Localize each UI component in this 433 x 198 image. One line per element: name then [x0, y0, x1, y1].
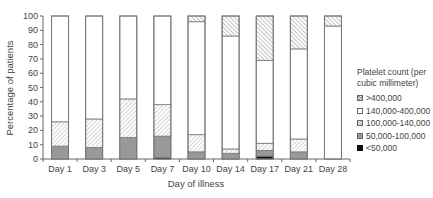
y-tick-label: 20	[28, 125, 38, 135]
y-tick-label: 10	[28, 140, 38, 150]
light-hatch-swatch-icon	[357, 120, 363, 126]
bar-segment	[222, 149, 239, 153]
y-axis: 0102030405060708090100	[23, 11, 43, 164]
bar-segment	[86, 16, 103, 119]
bar-segment	[290, 49, 307, 139]
bar-day-10	[188, 16, 205, 159]
y-tick-label: 0	[33, 154, 38, 164]
x-axis: Day 1Day 3Day 5Day 7Day 10Day 14Day 17Da…	[43, 159, 350, 174]
y-tick-label: 60	[28, 68, 38, 78]
bar-day-1	[52, 16, 69, 159]
bar-segment	[120, 16, 137, 99]
bar-segment	[86, 148, 103, 159]
bar-segment	[52, 146, 69, 159]
bar-day-14	[222, 16, 239, 159]
y-tick-label: 80	[28, 40, 38, 50]
legend-label: 50,000-100,000	[366, 130, 426, 143]
x-tick-label: Day 21	[285, 164, 314, 174]
x-axis-label: Day of illness	[168, 178, 225, 189]
y-tick-label: 90	[28, 25, 38, 35]
y-tick-label: 70	[28, 54, 38, 64]
bar-segment	[290, 152, 307, 159]
bar-segment	[256, 60, 273, 143]
bar-segment	[188, 22, 205, 135]
x-tick-label: Day 1	[48, 164, 72, 174]
legend-title-line2: cubic millimeter)	[357, 78, 430, 89]
bar-segment	[120, 99, 137, 138]
x-tick-label: Day 5	[117, 164, 141, 174]
x-tick-label: Day 10	[182, 164, 211, 174]
bar-segment	[222, 153, 239, 159]
bar-segment	[290, 139, 307, 152]
legend-item-50k-100k: 50,000-100,000	[357, 130, 430, 143]
legend-item-gt400k: >400,000	[357, 92, 430, 105]
x-tick-label: Day 17	[250, 164, 279, 174]
bar-segment	[52, 122, 69, 146]
bar-segment	[290, 16, 307, 49]
legend-label: 100,000-140,000	[366, 117, 430, 130]
legend: Platelet count (per cubic millimeter) >4…	[357, 67, 430, 155]
y-axis-label: Percentage of patients	[4, 40, 15, 135]
x-tick-label: Day 7	[151, 164, 175, 174]
bar-segment	[256, 16, 273, 60]
legend-title-line1: Platelet count (per	[357, 67, 430, 78]
bar-day-21	[290, 16, 307, 159]
legend-item-140k-400k: 140,000-400,000	[357, 105, 430, 118]
bar-segment	[324, 16, 341, 26]
bar-day-3	[86, 16, 103, 159]
legend-title: Platelet count (per cubic millimeter)	[357, 67, 430, 89]
bar-segment	[222, 16, 239, 36]
bars	[52, 16, 342, 159]
bar-segment	[256, 150, 273, 156]
y-tick-label: 50	[28, 83, 38, 93]
x-tick-label: Day 14	[216, 164, 245, 174]
legend-label: <50,000	[366, 142, 397, 155]
y-tick-label: 30	[28, 111, 38, 121]
bar-segment	[52, 16, 69, 122]
legend-label: 140,000-400,000	[366, 105, 430, 118]
bar-segment	[188, 135, 205, 152]
dense-hatch-swatch-icon	[357, 95, 363, 101]
bar-day-17	[256, 16, 273, 159]
legend-item-100k-140k: 100,000-140,000	[357, 117, 430, 130]
y-tick-label: 40	[28, 97, 38, 107]
bar-day-7	[154, 16, 171, 159]
white-swatch-icon	[357, 108, 363, 114]
bar-day-5	[120, 16, 137, 159]
bar-segment	[120, 138, 137, 159]
bar-segment	[154, 105, 171, 136]
x-tick-label: Day 28	[319, 164, 348, 174]
bar-segment	[324, 26, 341, 159]
bar-day-28	[324, 16, 341, 159]
black-swatch-icon	[357, 145, 363, 151]
bar-segment	[188, 16, 205, 22]
bar-segment	[154, 16, 171, 105]
y-tick-label: 100	[23, 11, 38, 21]
legend-item-lt50k: <50,000	[357, 142, 430, 155]
chart: 0102030405060708090100 Day 1Day 3Day 5Da…	[0, 0, 433, 198]
gray-swatch-icon	[357, 133, 363, 139]
bar-segment	[86, 119, 103, 148]
bar-segment	[154, 136, 171, 157]
bar-segment	[188, 152, 205, 159]
legend-label: >400,000	[366, 92, 402, 105]
x-tick-label: Day 3	[82, 164, 106, 174]
bar-segment	[222, 36, 239, 149]
bar-segment	[256, 143, 273, 150]
